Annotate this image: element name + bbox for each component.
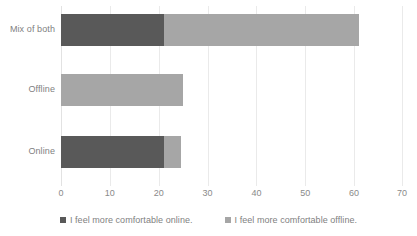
legend-label-online: I feel more comfortable online. <box>70 215 193 225</box>
x-axis-tick-labels: 0 10 20 30 40 50 60 70 <box>61 188 403 204</box>
chart-legend: I feel more comfortable online. I feel m… <box>0 210 417 230</box>
legend-swatch-online-icon <box>60 217 66 223</box>
x-tick-10: 10 <box>105 188 115 198</box>
bar-segment-online-mix-of-both[interactable] <box>61 14 164 46</box>
category-label-offline: Offline <box>0 84 55 94</box>
bar-segment-offline-mix-of-both[interactable] <box>164 14 359 46</box>
gridline-70 <box>402 6 403 186</box>
bar-segment-online-online[interactable] <box>61 136 164 168</box>
x-tick-70: 70 <box>397 188 407 198</box>
horizontal-stacked-bar-chart: Mix of both Offline Online 0 10 20 30 40… <box>0 0 417 236</box>
category-axis-labels: Mix of both Offline Online <box>0 6 55 186</box>
plot-area <box>61 6 403 186</box>
legend-swatch-offline-icon <box>225 217 231 223</box>
bar-segment-offline-online[interactable] <box>164 136 181 168</box>
x-tick-40: 40 <box>251 188 261 198</box>
x-tick-0: 0 <box>58 188 63 198</box>
legend-item-online[interactable]: I feel more comfortable online. <box>60 215 193 225</box>
legend-label-offline: I feel more comfortable offline. <box>235 215 358 225</box>
x-tick-60: 60 <box>349 188 359 198</box>
x-tick-30: 30 <box>203 188 213 198</box>
legend-item-offline[interactable]: I feel more comfortable offline. <box>225 215 358 225</box>
category-label-online: Online <box>0 146 55 156</box>
category-label-mix-of-both: Mix of both <box>0 24 55 34</box>
bar-segment-offline-offline[interactable] <box>61 74 183 106</box>
x-tick-20: 20 <box>154 188 164 198</box>
x-tick-50: 50 <box>300 188 310 198</box>
